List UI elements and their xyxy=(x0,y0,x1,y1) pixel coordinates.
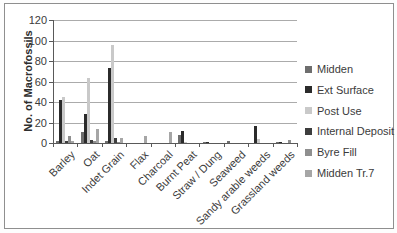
legend-swatch xyxy=(305,86,312,93)
legend-label: Ext Surface xyxy=(317,84,374,96)
legend-item: Ext Surface xyxy=(305,84,374,96)
legend-swatch xyxy=(305,149,312,156)
legend-label: Byre Fill xyxy=(317,146,357,158)
legend-label: Midden Tr.7 xyxy=(317,167,374,179)
legend-swatch xyxy=(305,170,312,177)
legend-item: Byre Fill xyxy=(305,146,357,158)
legend-label: Internal Deposit xyxy=(317,125,394,137)
legend-item: Midden Tr.7 xyxy=(305,167,374,179)
legend-label: Post Use xyxy=(317,105,362,117)
legend-label: Midden xyxy=(317,63,353,75)
legend-item: Post Use xyxy=(305,105,362,117)
legend-swatch xyxy=(305,66,312,73)
chart-figure: No. of Macrofossils 120100806040200Barle… xyxy=(0,0,397,233)
legend-item: Midden xyxy=(305,63,353,75)
legend-swatch xyxy=(305,128,312,135)
legend-item: Internal Deposit xyxy=(305,125,394,137)
legend: MiddenExt SurfacePost UseInternal Deposi… xyxy=(0,0,397,233)
legend-swatch xyxy=(305,107,312,114)
